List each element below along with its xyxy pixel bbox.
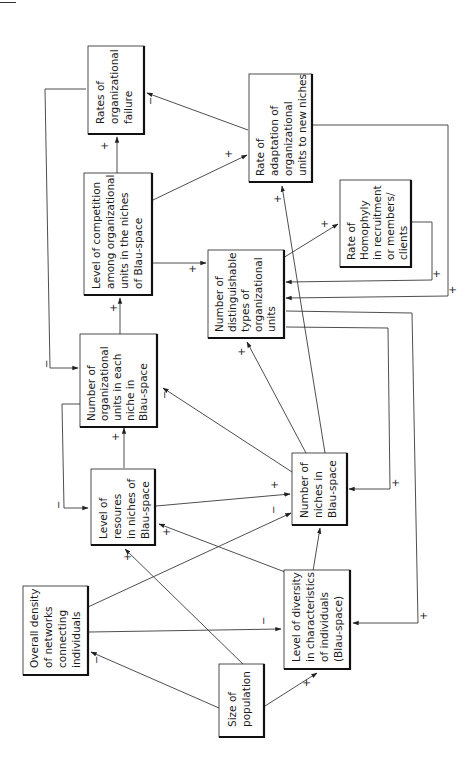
node-failure: Rates of organizational failure xyxy=(88,46,144,134)
sign: + xyxy=(99,142,110,150)
node-types: Number of distinguishable types of organ… xyxy=(208,249,284,338)
svg-text:−: − xyxy=(53,501,64,509)
node-resources: Level of resoures in niches of Blau-spac… xyxy=(91,469,155,545)
node-density: Overall density of networks connecting i… xyxy=(23,585,88,675)
causal-diagram: + − + − + + + + + + + − + xyxy=(0,0,473,768)
svg-text:Number of niches in: Number of niches in Blau-space xyxy=(298,459,338,518)
node-niches: Number of niches in Blau-space xyxy=(292,453,347,525)
svg-text:−: − xyxy=(159,391,170,399)
svg-text:−: − xyxy=(41,360,52,368)
svg-text:+: + xyxy=(447,286,458,294)
svg-text:−: − xyxy=(268,506,279,514)
node-diversity: Level of diversity in characteristics of… xyxy=(284,569,350,669)
node-homophyly: Rate of Homophyly in recruitment or memb… xyxy=(340,180,411,267)
svg-text:+: + xyxy=(390,479,401,487)
svg-text:+: + xyxy=(319,220,330,228)
svg-text:+: + xyxy=(272,195,283,203)
svg-text:−: − xyxy=(91,656,102,664)
node-units-per-niche: Number of organizational units in each n… xyxy=(80,334,157,427)
svg-text:+: + xyxy=(110,433,121,441)
svg-text:+: + xyxy=(418,612,429,620)
svg-text:−: − xyxy=(145,97,156,105)
svg-text:+: + xyxy=(269,481,280,489)
node-competition: Level of competition among organizationa… xyxy=(84,171,152,295)
svg-text:+: + xyxy=(431,270,442,278)
svg-text:−: − xyxy=(258,617,269,625)
svg-text:+: + xyxy=(122,553,133,561)
svg-text:+: + xyxy=(108,304,119,312)
svg-text:+: + xyxy=(301,679,312,687)
svg-text:+: + xyxy=(236,348,247,356)
svg-text:+: + xyxy=(187,265,198,273)
node-adaptation: Rate of adaptation of organizational uni… xyxy=(249,74,312,182)
node-population: Size of population xyxy=(219,664,264,737)
svg-text:+: + xyxy=(161,528,172,536)
svg-text:+: + xyxy=(223,150,234,158)
